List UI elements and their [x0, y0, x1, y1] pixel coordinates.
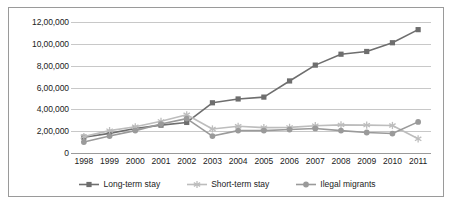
data-point	[184, 116, 190, 122]
legend-marker-square-icon	[78, 179, 100, 190]
legend-label: Long-term stay	[103, 179, 160, 189]
x-axis-tick-label: 2010	[383, 156, 402, 166]
gridline	[71, 153, 431, 154]
data-point	[236, 96, 241, 101]
data-point	[338, 128, 344, 134]
data-point	[338, 52, 343, 57]
x-axis-tick-label: 2002	[177, 156, 196, 166]
x-axis-tick-label: 2000	[126, 156, 145, 166]
x-axis-tick-label: 2004	[229, 156, 248, 166]
legend-marker	[303, 181, 309, 187]
data-point	[415, 135, 421, 142]
series-line	[84, 115, 418, 139]
series-short-term-stay	[81, 111, 422, 142]
series-layer	[71, 22, 431, 153]
data-point	[132, 128, 138, 134]
legend-marker-asterisk-icon	[186, 179, 208, 190]
x-axis-tick-label: 2006	[280, 156, 299, 166]
plot-area	[71, 22, 431, 153]
y-axis-tick-label: 12,00,000	[32, 17, 69, 27]
chart-legend: Long-term stayShort-term stayIlegal migr…	[9, 176, 445, 192]
x-axis-tick-label: 1999	[100, 156, 119, 166]
data-point	[235, 128, 241, 134]
x-axis-tick-label: 2008	[332, 156, 351, 166]
y-axis-tick-label: 8,00,000	[37, 61, 69, 71]
legend-item-ilegal-migrants[interactable]: Ilegal migrants	[295, 179, 375, 190]
chart-container: 02,00,0004,00,0006,00,0008,00,00010,00,0…	[8, 7, 444, 197]
legend-label: Ilegal migrants	[320, 179, 375, 189]
data-point	[210, 100, 215, 105]
legend-item-short-term-stay[interactable]: Short-term stay	[186, 179, 269, 190]
data-point	[415, 119, 421, 125]
x-axis-labels: 1998199920002001200220032004200520062007…	[71, 156, 431, 170]
data-point	[210, 133, 216, 139]
y-axis-tick-label: 6,00,000	[37, 83, 69, 93]
x-axis-tick-label: 2003	[203, 156, 222, 166]
data-point	[81, 139, 87, 145]
y-axis-tick-label: 0	[64, 148, 69, 158]
data-point	[158, 121, 164, 127]
y-axis-tick-label: 10,00,000	[32, 39, 69, 49]
data-point	[312, 126, 318, 132]
legend-marker-circle-icon	[295, 179, 317, 190]
data-point	[364, 130, 370, 136]
x-axis-tick-label: 2011	[409, 156, 427, 166]
data-point	[261, 95, 266, 100]
data-point	[287, 78, 292, 83]
series-line	[84, 30, 418, 138]
data-point	[390, 40, 395, 45]
legend-label: Short-term stay	[211, 179, 269, 189]
legend-item-long-term-stay[interactable]: Long-term stay	[78, 179, 160, 190]
y-axis-labels: 02,00,0004,00,0006,00,0008,00,00010,00,0…	[15, 22, 69, 153]
y-axis-tick-label: 4,00,000	[37, 104, 69, 114]
x-axis-tick-label: 2007	[306, 156, 325, 166]
y-axis-tick-label: 2,00,000	[37, 126, 69, 136]
data-point	[390, 131, 396, 137]
data-point	[107, 133, 113, 139]
series-long-term-stay	[81, 27, 420, 140]
data-point	[261, 128, 267, 134]
data-point	[313, 63, 318, 68]
legend-marker	[87, 181, 92, 186]
x-axis-tick-label: 2005	[254, 156, 273, 166]
series-ilegal-migrants	[81, 116, 421, 145]
data-point	[287, 127, 293, 133]
data-point	[364, 49, 369, 54]
data-point	[416, 27, 421, 32]
x-axis-tick-label: 2001	[152, 156, 171, 166]
x-axis-tick-label: 2009	[357, 156, 376, 166]
x-axis-tick-label: 1998	[74, 156, 93, 166]
